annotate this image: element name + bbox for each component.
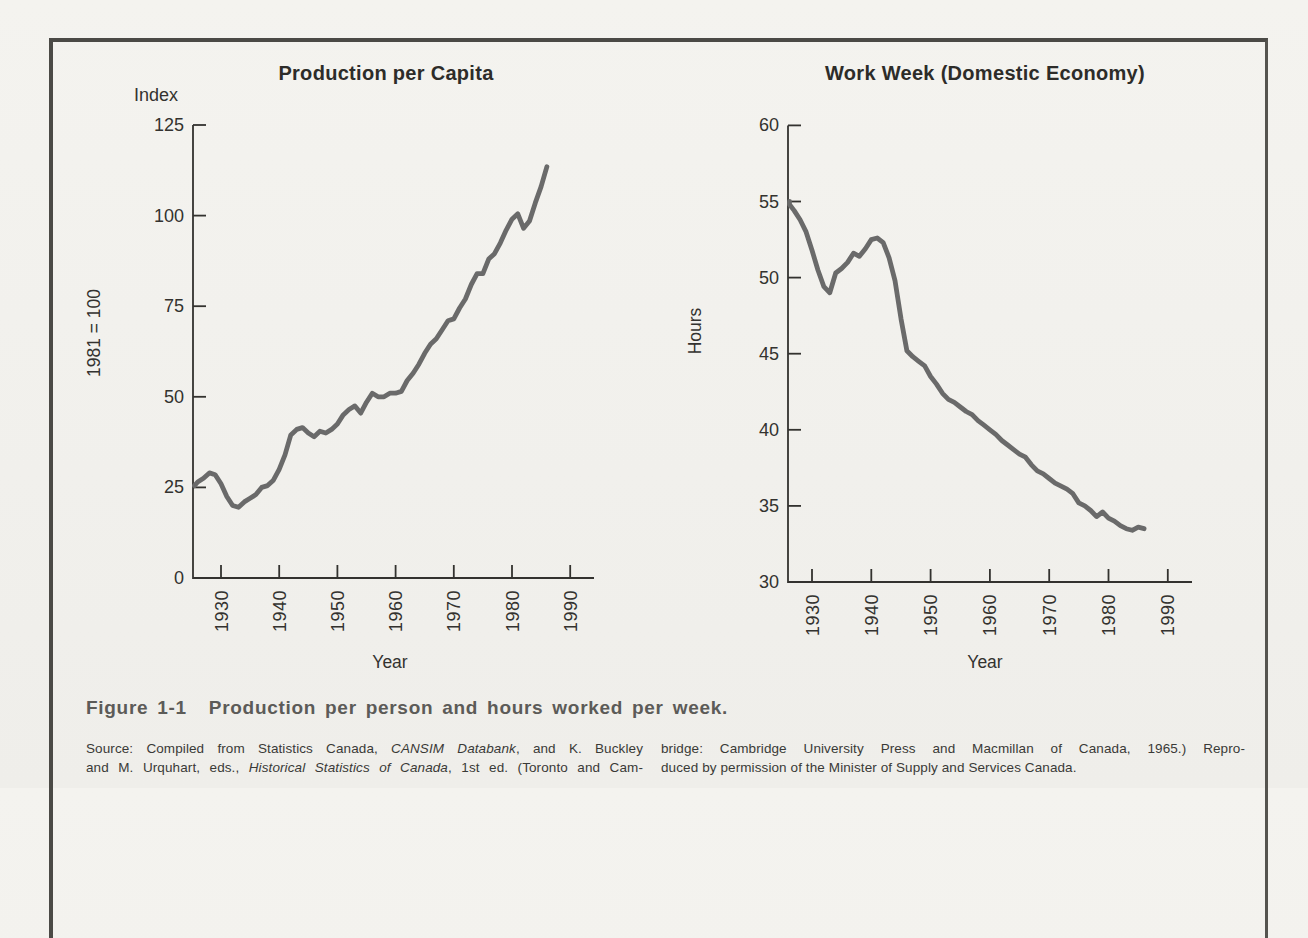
- y-axis-side-label: 1981 = 100: [84, 289, 104, 377]
- source-citation-italic: CANSIM Databank: [391, 741, 516, 756]
- production-per-capita-chart: 0255075100125193019401950196019701980199…: [84, 62, 594, 672]
- y-tick-label: 0: [174, 568, 184, 588]
- y-tick-label: 125: [154, 115, 184, 135]
- y-tick-label: 25: [164, 477, 184, 497]
- x-tick-label: 1970: [1040, 594, 1060, 636]
- y-tick-label: 40: [759, 420, 779, 440]
- x-tick-label: 1980: [503, 590, 523, 632]
- figure-caption: Figure 1-1Production per person and hour…: [86, 697, 1236, 719]
- figure-number: Figure 1-1: [86, 697, 187, 718]
- work-week-curve: [790, 202, 1145, 531]
- y-tick-label: 45: [759, 344, 779, 364]
- y-tick-label: 55: [759, 192, 779, 212]
- source-text-segment: and M. Urquhart, eds.,: [86, 760, 249, 775]
- source-text-line: and M. Urquhart, eds., Historical Statis…: [86, 759, 643, 778]
- figure-title: Production per person and hours worked p…: [209, 697, 728, 718]
- x-tick-label: 1960: [980, 594, 1000, 636]
- source-text-line: Source: Compiled from Statistics Canada,…: [86, 740, 643, 759]
- source-text-right-column: bridge: Cambridge University Press and M…: [661, 740, 1245, 777]
- x-tick-label: 1940: [270, 590, 290, 632]
- source-citation-italic: Historical Statistics of Canada: [249, 760, 448, 775]
- y-axis-side-label: Hours: [685, 307, 705, 354]
- source-text-segment: , 1st ed. (Toronto and Cam-: [448, 760, 643, 775]
- x-axis-label: Year: [967, 652, 1003, 672]
- x-axis-label: Year: [372, 652, 408, 672]
- y-tick-label: 75: [164, 296, 184, 316]
- axis-lines: [193, 125, 594, 578]
- y-tick-label: 30: [759, 572, 779, 592]
- y-tick-label: 50: [759, 268, 779, 288]
- source-text-segment: , and K. Buckley: [516, 741, 643, 756]
- source-text-left-column: Source: Compiled from Statistics Canada,…: [86, 740, 643, 777]
- chart-title: Production per Capita: [278, 62, 494, 84]
- x-tick-label: 1990: [561, 590, 581, 632]
- chart-title: Work Week (Domestic Economy): [825, 62, 1145, 84]
- x-tick-label: 1990: [1158, 594, 1178, 636]
- x-tick-label: 1960: [386, 590, 406, 632]
- y-tick-label: 100: [154, 206, 184, 226]
- x-tick-label: 1950: [328, 590, 348, 632]
- y-tick-label: 35: [759, 496, 779, 516]
- x-tick-label: 1970: [444, 590, 464, 632]
- production-per-capita-curve: [195, 167, 547, 508]
- source-text-segment: Source: Compiled from Statistics Canada,: [86, 741, 391, 756]
- x-tick-label: 1930: [803, 594, 823, 636]
- x-tick-label: 1950: [921, 594, 941, 636]
- x-tick-label: 1980: [1099, 594, 1119, 636]
- x-tick-label: 1930: [212, 590, 232, 632]
- source-text-line: duced by permission of the Minister of S…: [661, 759, 1245, 778]
- work-week-chart: 3035404550556019301940195019601970198019…: [685, 62, 1192, 672]
- source-text-line: bridge: Cambridge University Press and M…: [661, 740, 1245, 759]
- y-axis-top-label: Index: [134, 85, 178, 105]
- y-tick-label: 60: [759, 115, 779, 135]
- source-text-segment: bridge: Cambridge University Press and M…: [661, 741, 1245, 756]
- axis-lines: [788, 125, 1192, 582]
- source-text-segment: duced by permission of the Minister of S…: [661, 760, 1077, 775]
- y-tick-label: 50: [164, 387, 184, 407]
- x-tick-label: 1940: [862, 594, 882, 636]
